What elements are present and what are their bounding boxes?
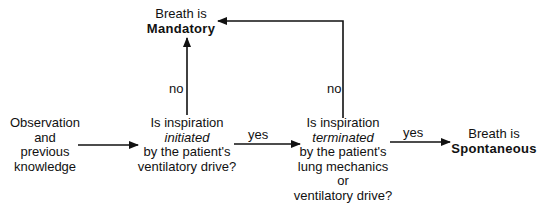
q2-line4: lung mechanics <box>294 160 392 175</box>
node-start: Observation and previous knowledge <box>10 116 80 174</box>
label-q2-yes: yes <box>403 126 423 141</box>
q1-line1: Is inspiration <box>138 116 236 131</box>
start-line3: previous <box>10 145 80 160</box>
node-q2-terminated: Is inspiration terminated by the patient… <box>294 116 392 203</box>
q1-line2: initiated <box>138 131 236 146</box>
q2-line1: Is inspiration <box>294 116 392 131</box>
label-q1-no: no <box>169 82 183 97</box>
spontaneous-line1: Breath is <box>451 127 537 142</box>
start-line2: and <box>10 131 80 146</box>
q1-line3: by the patient's <box>138 145 236 160</box>
q2-line6: ventilatory drive? <box>294 189 392 204</box>
flowchart-diagram: Breath is Mandatory Observation and prev… <box>0 0 544 203</box>
node-mandatory: Breath is Mandatory <box>147 7 215 36</box>
q2-line2: terminated <box>294 131 392 146</box>
label-q1-yes: yes <box>248 128 268 143</box>
q2-line5: or <box>294 174 392 189</box>
label-q2-no: no <box>327 82 341 97</box>
spontaneous-line2: Spontaneous <box>451 142 537 157</box>
start-line4: knowledge <box>10 160 80 175</box>
mandatory-line1: Breath is <box>147 7 215 22</box>
node-spontaneous: Breath is Spontaneous <box>451 127 537 156</box>
q2-line3: by the patient's <box>294 145 392 160</box>
arrow-q2-no <box>218 21 343 118</box>
node-q1-initiated: Is inspiration initiated by the patient'… <box>138 116 236 174</box>
start-line1: Observation <box>10 116 80 131</box>
mandatory-line2: Mandatory <box>147 22 215 37</box>
connector-lines <box>0 0 544 203</box>
q1-line4: ventilatory drive? <box>138 160 236 175</box>
